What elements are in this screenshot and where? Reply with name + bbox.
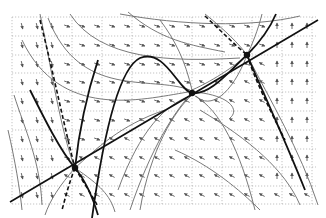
field-arrow-icon (64, 81, 70, 83)
trajectory (192, 55, 247, 90)
field-arrow-icon (51, 136, 52, 142)
field-arrow-icon (124, 138, 129, 141)
field-arrow-icon (36, 192, 37, 198)
trajectory (14, 95, 42, 205)
field-arrow-icon (199, 63, 205, 65)
field-arrow-icon (229, 63, 234, 66)
field-arrow-icon (109, 63, 115, 65)
field-arrow-icon (304, 194, 309, 197)
field-arrow-icon (139, 25, 145, 27)
field-arrow-icon (139, 157, 144, 160)
field-arrow-icon (21, 136, 22, 142)
field-arrow-icon (214, 157, 219, 160)
trajectory (118, 96, 190, 190)
field-arrow-icon (199, 119, 204, 122)
field-arrow-icon (139, 194, 144, 197)
field-arrow-icon (94, 25, 100, 27)
field-arrow-icon (169, 81, 175, 83)
trajectory (70, 14, 240, 59)
field-arrow-icon (21, 23, 22, 29)
field-arrow-icon (259, 119, 264, 122)
trajectory (130, 93, 192, 210)
field-arrow-icon (51, 155, 52, 161)
field-arrow-icon (154, 138, 159, 141)
field-arrow-icon (259, 25, 265, 27)
field-arrow-icon (124, 175, 129, 178)
trajectory (140, 95, 192, 210)
field-arrow-icon (64, 119, 70, 121)
field-arrow-icon (139, 44, 145, 46)
field-arrow-icon (244, 119, 249, 122)
trajectory (8, 130, 22, 210)
field-arrow-icon (109, 175, 114, 178)
field-arrow-icon (259, 175, 264, 178)
separatrix-curves (30, 14, 305, 218)
field-arrow-icon (229, 157, 234, 160)
field-arrow-icon (244, 81, 249, 84)
field-arrow-icon (124, 157, 129, 160)
field-arrow-icon (214, 44, 220, 46)
field-arrow-icon (51, 42, 52, 48)
field-arrow-icon (229, 175, 234, 178)
trajectory (247, 14, 262, 55)
field-arrow-icon (51, 98, 52, 104)
field-arrow-icon (124, 63, 130, 65)
lower-left-node-icon (72, 165, 78, 171)
field-arrow-icon (21, 173, 22, 179)
field-arrow-icon (229, 119, 234, 122)
field-arrow-icon (169, 100, 174, 103)
field-arrow-icon (21, 98, 22, 104)
field-arrow-icon (229, 194, 234, 197)
field-arrow-icon (214, 63, 220, 65)
field-arrow-icon (139, 63, 145, 65)
field-arrow-icon (64, 100, 70, 102)
field-arrow-icon (36, 117, 37, 123)
field-arrow-icon (36, 42, 37, 48)
field-arrow-icon (214, 194, 219, 197)
trajectory (45, 168, 75, 215)
field-arrow-icon (109, 25, 115, 27)
field-arrow-icon (124, 194, 129, 197)
field-arrow-icon (64, 138, 70, 140)
field-arrow-icon (169, 138, 174, 141)
field-arrow-icon (79, 194, 84, 197)
field-arrow-icon (154, 175, 159, 178)
field-arrow-icon (229, 25, 235, 27)
field-arrow-icon (21, 155, 22, 161)
field-arrow-icon (154, 63, 160, 65)
center-point-icon (189, 90, 195, 96)
field-arrow-icon (259, 44, 265, 46)
field-arrow-icon (259, 100, 264, 103)
field-arrow-icon (169, 194, 174, 197)
field-arrow-icon (184, 175, 189, 178)
field-arrow-icon (36, 155, 37, 161)
field-arrow-icon (109, 194, 114, 197)
field-arrow-icon (214, 100, 219, 103)
field-arrow-icon (214, 138, 219, 141)
field-arrow-icon (36, 136, 37, 142)
field-arrow-icon (109, 81, 115, 83)
field-arrow-icon (79, 44, 85, 46)
field-arrow-icon (274, 194, 279, 197)
trajectory (195, 96, 255, 210)
field-arrow-icon (64, 25, 70, 27)
field-arrow-icon (51, 117, 52, 123)
field-arrow-icon (244, 100, 249, 103)
field-arrow-icon (229, 100, 234, 103)
field-arrow-icon (94, 157, 99, 160)
field-arrow-icon (64, 63, 70, 65)
field-arrow-icon (259, 63, 264, 66)
field-arrow-icon (124, 25, 130, 27)
field-arrow-icon (259, 194, 264, 197)
field-arrow-icon (21, 79, 22, 85)
field-arrow-icon (259, 138, 264, 141)
field-arrow-icon (154, 100, 160, 102)
trajectory (48, 18, 190, 90)
field-arrow-icon (199, 81, 204, 84)
field-arrow-icon (244, 157, 249, 160)
field-arrow-icon (124, 119, 130, 121)
field-arrow-icon (184, 81, 190, 83)
field-arrow-icon (21, 61, 22, 67)
field-arrow-icon (94, 81, 100, 83)
field-arrow-icon (94, 119, 100, 121)
